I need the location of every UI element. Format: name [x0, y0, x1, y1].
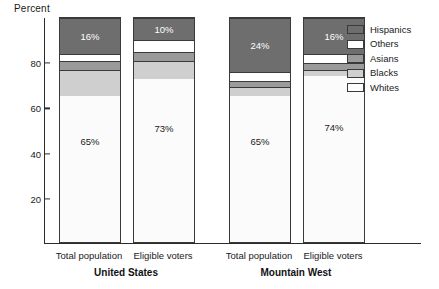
legend-label: Others — [370, 39, 399, 49]
y-axis-title: Percent — [14, 3, 50, 14]
bar-segment-whites[interactable]: 73% — [134, 79, 194, 243]
legend-swatch-icon — [347, 83, 364, 92]
stacked-bar[interactable]: 65%16% — [59, 17, 121, 243]
y-axis-tick-label: 60 — [19, 103, 41, 114]
bar-value-label: 16% — [80, 32, 99, 42]
bar-segment-whites[interactable]: 74% — [304, 76, 364, 242]
bar-segment-hispanics[interactable]: 24% — [230, 18, 290, 72]
x-axis-group-label: Mountain West — [261, 267, 332, 278]
bar-value-label: 24% — [250, 41, 269, 51]
bar-value-label: 16% — [324, 32, 343, 42]
bar-segment-asians[interactable] — [60, 61, 120, 70]
legend-item[interactable]: Whites — [347, 82, 411, 93]
x-axis-category-label: Eligible voters — [303, 250, 362, 261]
legend-swatch-icon — [347, 54, 364, 63]
y-axis-tick-label: 20 — [19, 193, 41, 204]
bar-value-label: 10% — [154, 25, 173, 35]
bar-segment-blacks[interactable] — [230, 87, 290, 96]
bar-segment-others[interactable] — [134, 40, 194, 51]
legend-label: Whites — [370, 83, 399, 93]
x-axis-category-label: Eligible voters — [133, 250, 192, 261]
y-axis-tick-label: 40 — [19, 148, 41, 159]
legend-swatch-icon — [347, 25, 364, 34]
bar-value-label: 65% — [80, 137, 99, 147]
x-axis-group-label: United States — [94, 267, 158, 278]
bar-segment-asians[interactable] — [134, 52, 194, 61]
bar-segment-hispanics[interactable]: 16% — [60, 18, 120, 54]
bar-segment-whites[interactable]: 65% — [230, 96, 290, 242]
legend-item[interactable]: Others — [347, 39, 411, 50]
legend-label: Asians — [370, 54, 399, 64]
bar-segment-asians[interactable] — [230, 81, 290, 88]
bar-value-label: 74% — [324, 123, 343, 133]
bar-segment-others[interactable] — [230, 72, 290, 81]
stacked-bar[interactable]: 65%24% — [229, 17, 291, 243]
y-axis-tick-label: 80 — [19, 58, 41, 69]
legend-item[interactable]: Hispanics — [347, 24, 411, 35]
bar-segment-blacks[interactable] — [60, 70, 120, 97]
bar-segment-blacks[interactable] — [134, 61, 194, 79]
bar-segment-whites[interactable]: 65% — [60, 96, 120, 242]
bar-segment-others[interactable] — [60, 54, 120, 61]
stacked-bar-chart: Percent 20406080 65%16%73%10%65%24%74%16… — [0, 0, 439, 289]
x-axis-category-label: Total population — [56, 250, 123, 261]
legend-item[interactable]: Blacks — [347, 68, 411, 79]
legend-swatch-icon — [347, 69, 364, 78]
legend-label: Hispanics — [370, 25, 411, 35]
legend-item[interactable]: Asians — [347, 53, 411, 64]
legend-swatch-icon — [347, 40, 364, 49]
legend-label: Blacks — [370, 68, 398, 78]
bar-segment-hispanics[interactable]: 10% — [134, 18, 194, 40]
chart-legend: HispanicsOthersAsiansBlacksWhites — [347, 24, 411, 93]
x-axis-category-label: Total population — [226, 250, 293, 261]
bar-value-label: 65% — [250, 137, 269, 147]
bar-value-label: 73% — [154, 124, 173, 134]
stacked-bar[interactable]: 73%10% — [133, 17, 195, 243]
